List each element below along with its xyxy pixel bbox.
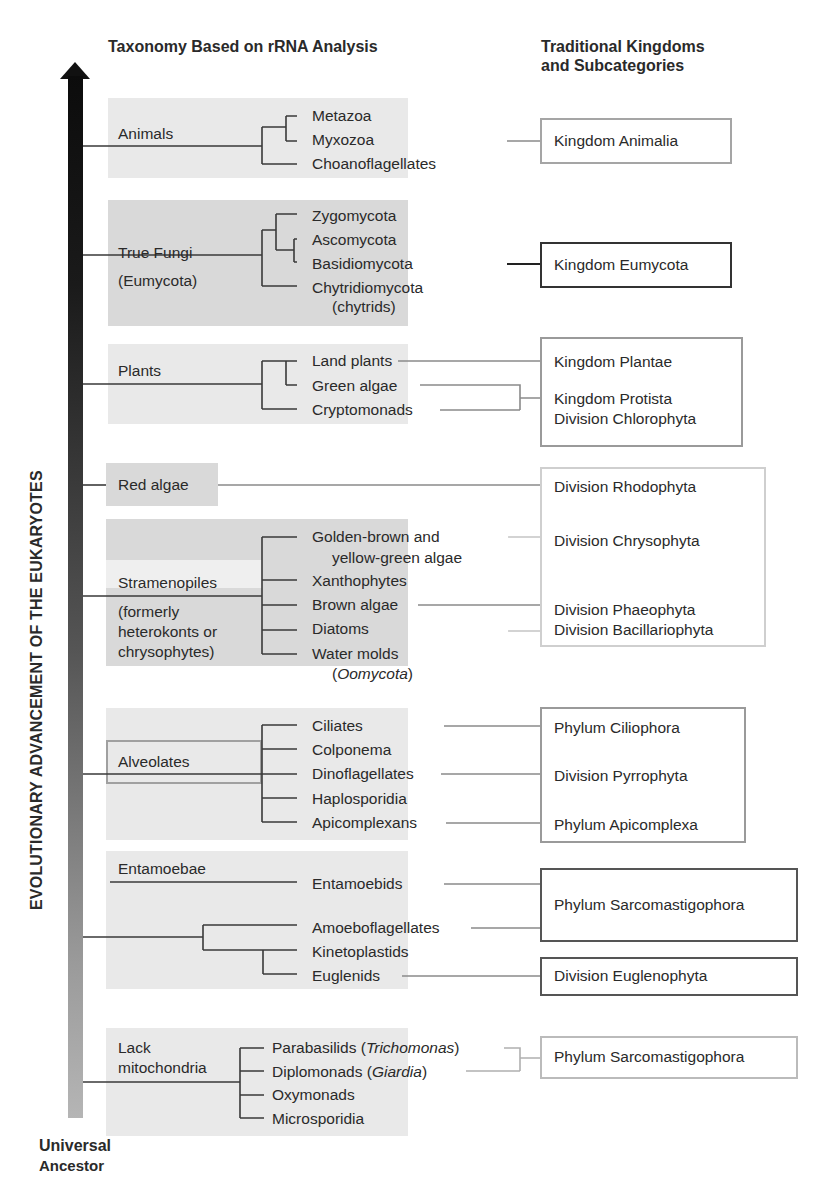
box-kingdom-animalia: Kingdom Animalia	[540, 118, 732, 164]
kingdom-protista-label: Kingdom Protista	[554, 390, 672, 408]
division-chlorophyta-label: Division Chlorophyta	[554, 410, 696, 428]
taxon-amoeboflagellates: Amoeboflagellates	[312, 919, 440, 937]
taxon-choanoflagellates: Choanoflagellates	[312, 155, 436, 173]
giardia-italic: Giardia	[372, 1063, 422, 1080]
division-pyrrophyta-label: Division Pyrrophyta	[554, 767, 688, 785]
taxon-kinetoplastids: Kinetoplastids	[312, 943, 409, 961]
phylum-ciliophora-label: Phylum Ciliophora	[554, 719, 680, 737]
division-phaeophyta-label: Division Phaeophyta	[554, 601, 695, 619]
parabasilids-text: Parabasilids (	[272, 1039, 366, 1056]
taxon-parabasilids: Parabasilids (Trichomonas)	[272, 1039, 460, 1057]
taxon-dinoflagellates: Dinoflagellates	[312, 765, 414, 783]
taxon-yellow-green: yellow-green algae	[332, 549, 462, 567]
box-rhodophyta-group: Division Rhodophyta Division Chrysophyta…	[540, 467, 766, 647]
taxon-oomycota: (Oomycota)	[332, 665, 413, 683]
taxon-ascomycota: Ascomycota	[312, 231, 396, 249]
taxon-golden-brown: Golden-brown and	[312, 528, 440, 546]
division-bacillariophyta-label: Division Bacillariophyta	[554, 621, 713, 639]
paren-close: )	[454, 1039, 459, 1056]
taxon-metazoa: Metazoa	[312, 107, 371, 125]
taxon-oxymonads: Oxymonads	[272, 1086, 355, 1104]
taxon-basidiomycota: Basidiomycota	[312, 255, 413, 273]
group-true-fungi: True Fungi	[118, 244, 192, 262]
taxon-green-algae: Green algae	[312, 377, 397, 395]
taxon-land-plants: Land plants	[312, 352, 392, 370]
taxon-chytridiomycota: Chytridiomycota	[312, 279, 423, 297]
stramenopiles-note-2: heterokonts or	[118, 623, 217, 641]
box-sarcomastigophora-1: Phylum Sarcomastigophora	[540, 868, 798, 942]
box-euglenophyta: Division Euglenophyta	[540, 957, 798, 996]
taxon-cryptomonads: Cryptomonads	[312, 401, 413, 419]
phylum-sarcomastigophora-label: Phylum Sarcomastigophora	[554, 896, 744, 914]
kingdom-plantae-label: Kingdom Plantae	[554, 353, 672, 371]
kingdom-animalia-label: Kingdom Animalia	[554, 132, 678, 150]
group-red-algae: Red algae	[118, 476, 189, 494]
taxon-xanthophytes: Xanthophytes	[312, 572, 407, 590]
oomycota-italic: Oomycota	[337, 665, 408, 682]
taxon-brown-algae: Brown algae	[312, 596, 398, 614]
group-true-fungi-sub: (Eumycota)	[118, 272, 197, 290]
group-alveolates: Alveolates	[118, 753, 190, 771]
group-entamoebae: Entamoebae	[118, 860, 206, 878]
taxon-myxozoa: Myxozoa	[312, 131, 374, 149]
box-kingdom-eumycota: Kingdom Eumycota	[540, 242, 732, 288]
trichomonas-italic: Trichomonas	[366, 1039, 454, 1056]
group-plants: Plants	[118, 362, 161, 380]
taxon-euglenids: Euglenids	[312, 967, 380, 985]
taxon-microsporidia: Microsporidia	[272, 1110, 364, 1128]
kingdom-eumycota-label: Kingdom Eumycota	[554, 256, 688, 274]
stramenopiles-note-1: (formerly	[118, 603, 179, 621]
box-sarcomastigophora-2: Phylum Sarcomastigophora	[540, 1036, 798, 1079]
group-animals: Animals	[118, 125, 173, 143]
taxon-diplomonads: Diplomonads (Giardia)	[272, 1063, 427, 1081]
division-chrysophyta-label: Division Chrysophyta	[554, 532, 700, 550]
group-stramenopiles: Stramenopiles	[118, 574, 217, 592]
diplomonads-text: Diplomonads (	[272, 1063, 372, 1080]
taxon-ciliates: Ciliates	[312, 717, 363, 735]
phylum-sarcomastigophora-label-2: Phylum Sarcomastigophora	[554, 1048, 744, 1066]
taxon-apicomplexans: Apicomplexans	[312, 814, 417, 832]
division-euglenophyta-label: Division Euglenophyta	[554, 967, 707, 985]
box-plantae-protista: Kingdom Plantae Kingdom Protista Divisio…	[540, 337, 743, 447]
taxon-chytrids: (chytrids)	[332, 298, 396, 316]
taxon-entamoebids: Entamoebids	[312, 875, 402, 893]
stramenopiles-note-3: chrysophytes)	[118, 643, 214, 661]
paren-close: )	[422, 1063, 427, 1080]
division-rhodophyta-label: Division Rhodophyta	[554, 478, 696, 496]
box-alveolate-phyla: Phylum Ciliophora Division Pyrrophyta Ph…	[540, 707, 746, 843]
taxon-colponema: Colponema	[312, 741, 391, 759]
taxon-diatoms: Diatoms	[312, 620, 369, 638]
group-lack: Lack	[118, 1039, 151, 1057]
taxon-zygomycota: Zygomycota	[312, 207, 396, 225]
taxon-water-molds: Water molds	[312, 645, 398, 663]
group-mitochondria: mitochondria	[118, 1059, 207, 1077]
phylum-apicomplexa-label: Phylum Apicomplexa	[554, 816, 698, 834]
taxon-haplosporidia: Haplosporidia	[312, 790, 407, 808]
